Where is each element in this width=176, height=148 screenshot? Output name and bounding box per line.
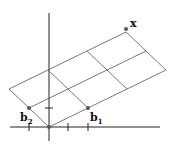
x-label: x <box>130 17 137 30</box>
b1-text: b <box>90 111 98 124</box>
b2-text: b <box>20 111 28 124</box>
b1-point <box>86 106 90 110</box>
lattice-diagram: x b1 b2 <box>0 0 176 148</box>
b1-subscript: 1 <box>98 117 103 126</box>
origin-point <box>47 125 51 129</box>
b1-label: b1 <box>90 111 103 126</box>
points <box>27 27 128 129</box>
b2-label: b2 <box>20 111 33 126</box>
b2-point <box>27 106 31 110</box>
x-point <box>124 27 128 31</box>
b2-subscript: 2 <box>28 117 33 126</box>
